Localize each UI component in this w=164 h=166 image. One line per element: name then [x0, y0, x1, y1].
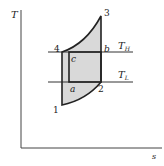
- point-label-2: 2: [98, 85, 104, 94]
- axis-label-s: s: [152, 153, 156, 161]
- tl-main: T: [118, 69, 125, 80]
- point-label-a: a: [70, 85, 75, 94]
- diagram-canvas: [0, 0, 164, 166]
- point-label-1: 1: [53, 106, 59, 115]
- th-subscript: H: [125, 45, 130, 52]
- point-label-c: c: [71, 55, 76, 64]
- ts-diagram: T s 3 4 b c a 2 1 TH TL: [0, 0, 164, 166]
- axis-label-t: T: [11, 10, 18, 20]
- th-main: T: [118, 40, 125, 51]
- point-label-b: b: [104, 45, 110, 54]
- tl-subscript: L: [125, 74, 129, 81]
- isotherm-label-tl: TL: [118, 70, 129, 81]
- cycle-shaded-region: [62, 16, 101, 105]
- point-label-4: 4: [54, 45, 60, 54]
- point-label-3: 3: [104, 9, 110, 18]
- isotherm-label-th: TH: [118, 41, 130, 52]
